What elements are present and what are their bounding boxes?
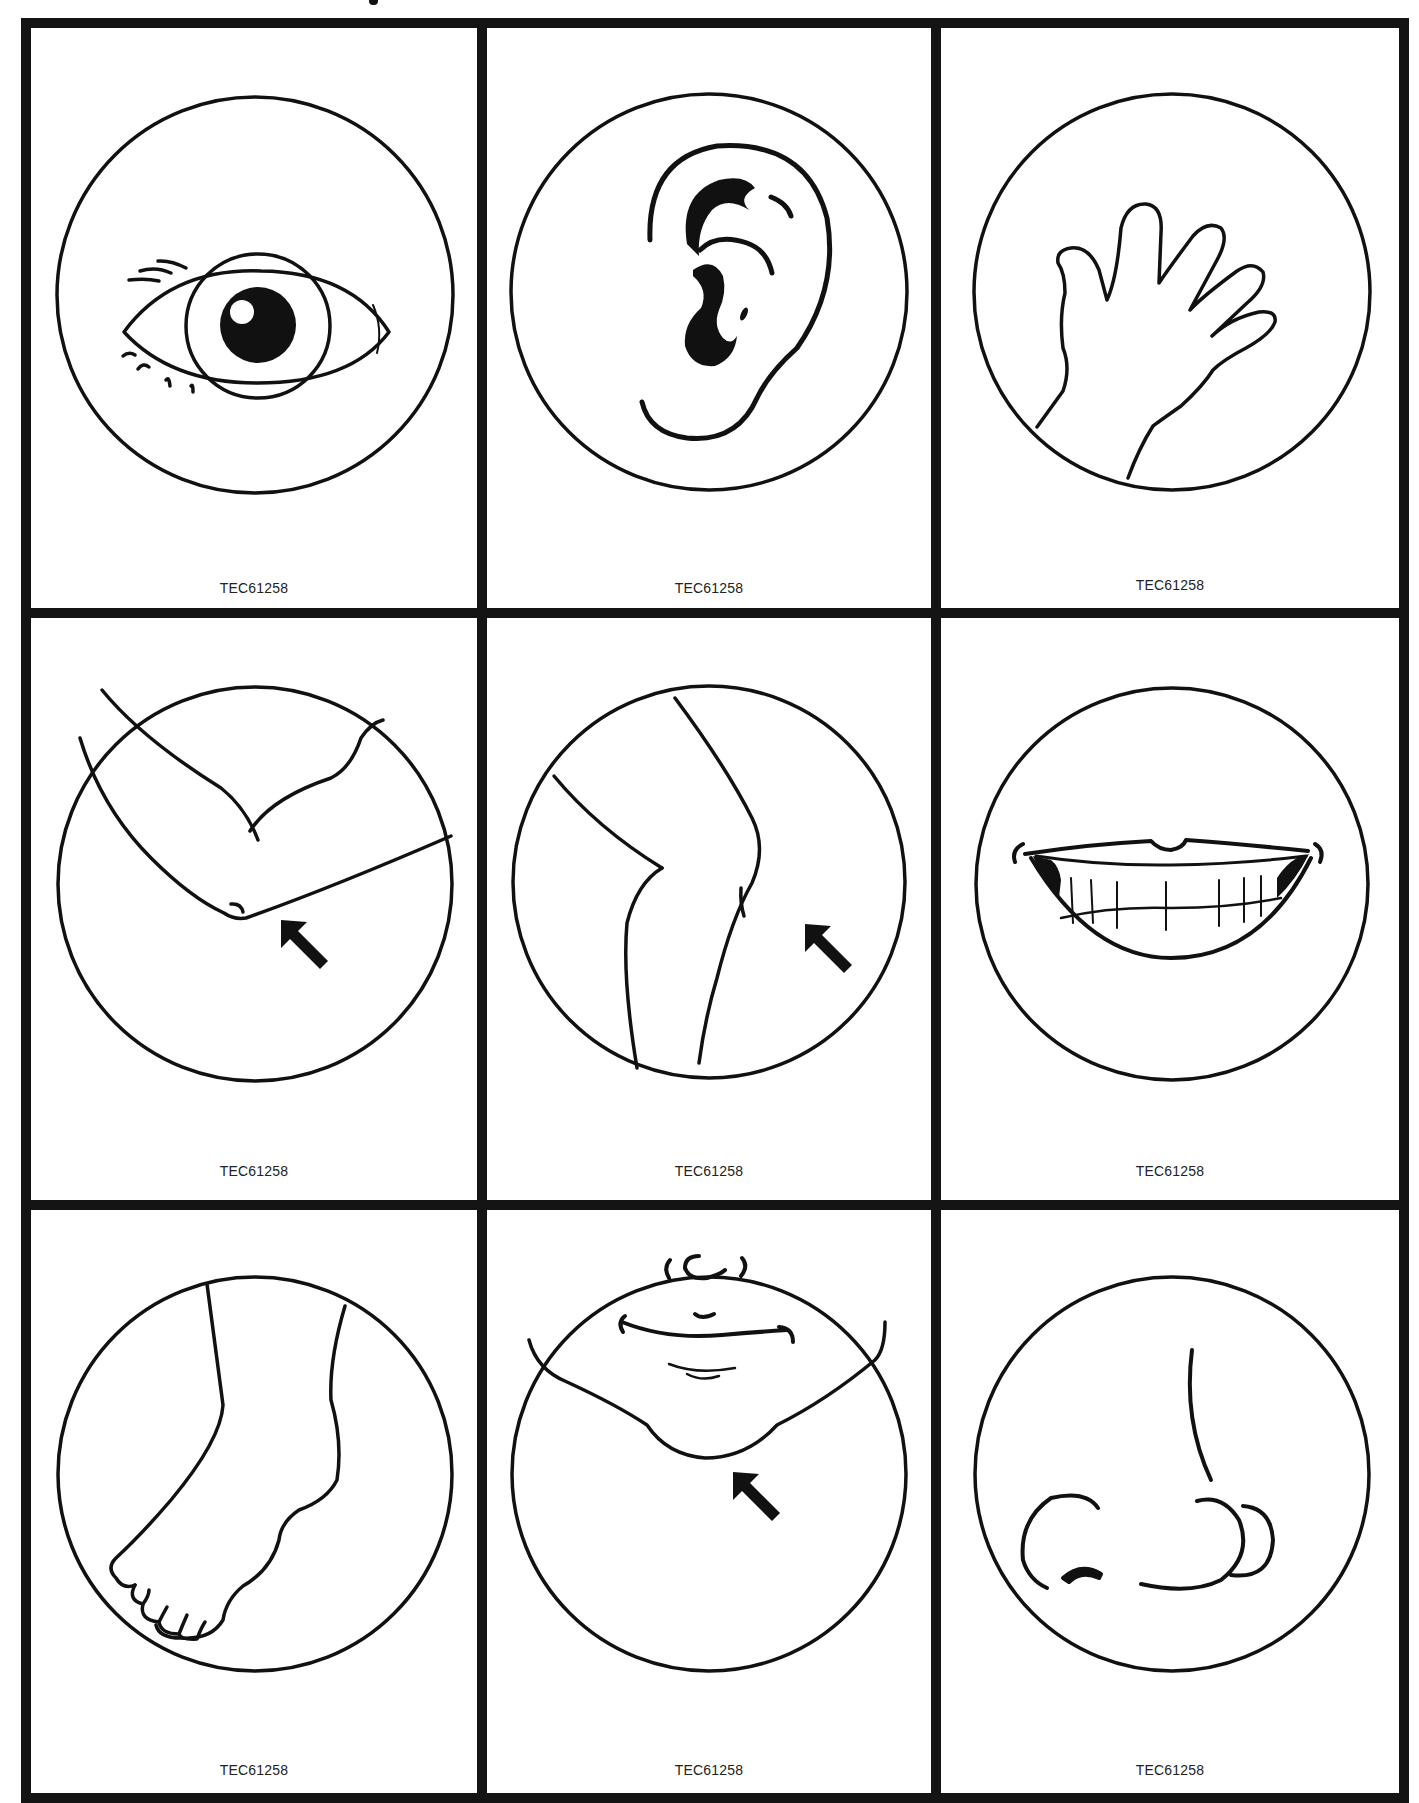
card-eye: TEC61258 — [31, 28, 477, 608]
product-code: TEC61258 — [31, 1762, 477, 1778]
divider-vertical-2 — [931, 18, 941, 1803]
card-elbow: TEC61258 — [31, 618, 477, 1200]
border-right — [1399, 18, 1409, 1803]
product-code: TEC61258 — [487, 1163, 931, 1179]
border-top — [21, 18, 1409, 28]
ear-icon — [487, 28, 931, 608]
nose-icon — [941, 1210, 1399, 1793]
card-foot: TEC61258 — [31, 1210, 477, 1793]
product-code: TEC61258 — [941, 577, 1399, 593]
card-knee: TEC61258 — [487, 618, 931, 1200]
product-code: TEC61258 — [941, 1762, 1399, 1778]
chin-icon — [487, 1210, 931, 1793]
foot-icon — [31, 1210, 477, 1793]
card-chin: TEC61258 — [487, 1210, 931, 1793]
divider-vertical-1 — [477, 18, 487, 1803]
eye-icon — [31, 28, 477, 608]
border-bottom — [21, 1793, 1409, 1803]
hand-icon — [941, 28, 1399, 608]
divider-horizontal-2 — [21, 1200, 1409, 1210]
mouth-icon — [941, 618, 1399, 1200]
divider-horizontal-1 — [21, 608, 1409, 618]
card-hand: TEC61258 — [941, 28, 1399, 608]
cropped-title-fragment — [369, 0, 378, 5]
card-mouth: TEC61258 — [941, 618, 1399, 1200]
product-code: TEC61258 — [941, 1163, 1399, 1179]
product-code: TEC61258 — [487, 1762, 931, 1778]
card-ear: TEC61258 — [487, 28, 931, 608]
product-code: TEC61258 — [487, 580, 931, 596]
product-code: TEC61258 — [31, 580, 477, 596]
product-code: TEC61258 — [31, 1163, 477, 1179]
border-left — [21, 18, 31, 1803]
card-nose: TEC61258 — [941, 1210, 1399, 1793]
elbow-icon — [31, 618, 477, 1200]
knee-icon — [487, 618, 931, 1200]
